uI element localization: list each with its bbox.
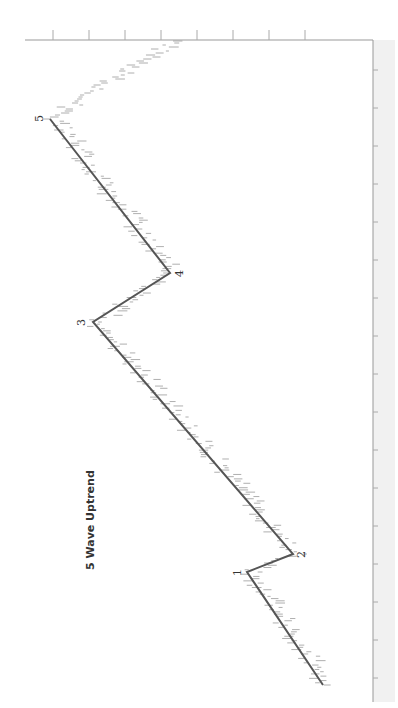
chart-title: 5 Wave Uptrend	[84, 510, 104, 570]
elliott-wave-chart	[0, 0, 398, 708]
wave-line	[50, 119, 323, 685]
wave-label-3: 3	[75, 319, 88, 326]
price-bars	[43, 41, 330, 685]
wave-label-1: 1	[231, 569, 244, 576]
wave-label-4: 4	[173, 270, 186, 277]
wave-label-2: 2	[295, 551, 308, 558]
wave-label-5: 5	[33, 115, 46, 122]
axis-ticks	[53, 30, 378, 678]
